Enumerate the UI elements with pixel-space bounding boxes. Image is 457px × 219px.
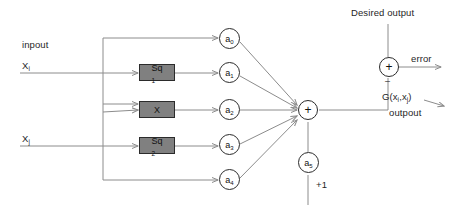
wire-output-arrow [424, 100, 444, 106]
input-caption: inpout [22, 40, 48, 50]
coef-node-a4[interactable]: a4 [219, 169, 240, 190]
wire-a3-to-sum [240, 116, 297, 144]
desired-output-label: Desired output [351, 8, 414, 18]
wire-a1-to-sum [240, 76, 297, 108]
coef-node-a3[interactable]: a3 [219, 134, 240, 155]
input-label-xj: Xj [22, 134, 30, 144]
output-caption: outpout [389, 108, 421, 118]
block-sq-top[interactable]: Sq1 [139, 64, 175, 81]
output-function-label: G(xi,xj) [382, 92, 412, 102]
bias-value-label: +1 [316, 180, 327, 190]
error-label: error [411, 54, 432, 64]
minus-sign: – [385, 76, 390, 86]
block-x-mid[interactable]: X [139, 101, 175, 118]
diagram-canvas: inpout Xi Xj Sq1 X Sq2 a0 a1 a2 a3 a4 + … [0, 0, 457, 219]
error-summation-node[interactable]: + [379, 57, 399, 77]
block-sq-bottom[interactable]: Sq2 [139, 137, 175, 154]
wire-a0-to-sum [240, 42, 297, 105]
wire-a4-to-sum [240, 120, 297, 178]
summation-node[interactable]: + [298, 100, 318, 120]
coef-node-a0[interactable]: a0 [219, 28, 240, 49]
coef-node-a1[interactable]: a1 [219, 62, 240, 83]
wire-bus-to-x-block-b [103, 110, 138, 112]
coef-node-a2[interactable]: a2 [219, 99, 240, 120]
input-label-xi: Xi [22, 61, 30, 71]
bias-node-a5[interactable]: a5 [298, 152, 319, 173]
